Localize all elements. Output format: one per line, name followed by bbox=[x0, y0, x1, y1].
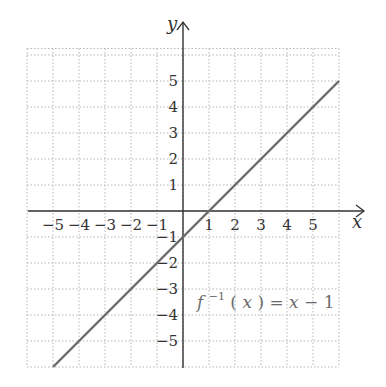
y-tick-label: 5 bbox=[168, 72, 178, 90]
x-tick-label: −4 bbox=[68, 216, 90, 234]
y-axis-label: y bbox=[166, 13, 178, 34]
y-tick-label: −4 bbox=[156, 306, 178, 324]
fn-equals: ) = bbox=[257, 292, 289, 312]
fn-paren-open: ( bbox=[230, 292, 237, 312]
fn-inverse-superscript: −1 bbox=[209, 290, 225, 303]
fn-var: x bbox=[242, 292, 252, 312]
x-tick-label: 4 bbox=[282, 216, 292, 234]
x-tick-label: 5 bbox=[308, 216, 318, 234]
fn-constant: − 1 bbox=[304, 292, 334, 312]
axes bbox=[28, 22, 364, 368]
x-axis-label: x bbox=[352, 211, 362, 232]
y-tick-label: −3 bbox=[156, 280, 178, 298]
y-tick-label: −5 bbox=[156, 332, 178, 350]
graph: −5−4−3−2−112345−5−4−3−2−112345 y x f −1 … bbox=[0, 0, 386, 387]
x-tick-label: 1 bbox=[204, 216, 214, 234]
x-tick-label: −3 bbox=[94, 216, 116, 234]
y-tick-label: 4 bbox=[168, 98, 178, 116]
y-tick-label: 3 bbox=[168, 124, 178, 142]
x-tick-label: 3 bbox=[256, 216, 266, 234]
x-tick-label: −5 bbox=[42, 216, 64, 234]
x-tick-label: −2 bbox=[120, 216, 142, 234]
x-tick-label: 2 bbox=[230, 216, 240, 234]
y-tick-label: −1 bbox=[156, 228, 178, 246]
y-tick-label: 1 bbox=[168, 176, 178, 194]
fn-name: f bbox=[195, 292, 206, 312]
y-tick-label: 2 bbox=[168, 150, 178, 168]
y-tick-label: −2 bbox=[156, 254, 178, 272]
fn-var-rhs: x bbox=[289, 292, 299, 312]
function-label: f −1 ( x ) = x − 1 bbox=[195, 284, 335, 312]
